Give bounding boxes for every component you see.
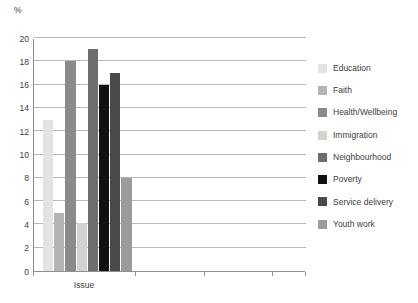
legend-item[interactable]: Poverty xyxy=(318,168,418,190)
y-tick-label: 8 xyxy=(7,174,29,183)
bar xyxy=(65,61,75,271)
legend-color-swatch-icon xyxy=(318,153,327,162)
chart-legend: EducationFaithHealth/WellbeingImmigratio… xyxy=(318,57,418,235)
bar xyxy=(99,85,109,271)
legend-label: Immigration xyxy=(333,131,377,140)
legend-item[interactable]: Education xyxy=(318,57,418,79)
y-tick-label: 20 xyxy=(7,35,29,44)
legend-label: Youth work xyxy=(333,220,375,229)
legend-item[interactable]: Immigration xyxy=(318,124,418,146)
legend-label: Faith xyxy=(333,86,352,95)
legend-item[interactable]: Youth work xyxy=(318,213,418,235)
y-tick-label: 4 xyxy=(7,221,29,230)
y-axis-tick-labels: 20181614121086420 xyxy=(5,39,29,272)
x-tick-mark xyxy=(33,272,34,276)
y-tick-label: 10 xyxy=(7,151,29,160)
bar xyxy=(43,120,53,271)
legend-label: Neighbourhood xyxy=(333,153,391,162)
bar xyxy=(77,223,87,271)
bar xyxy=(88,49,98,272)
legend-label: Health/Wellbeing xyxy=(333,108,397,117)
y-tick-label: 12 xyxy=(7,128,29,137)
x-axis-category-label: Issue xyxy=(33,280,135,290)
legend-color-swatch-icon xyxy=(318,197,327,206)
bar xyxy=(110,73,120,271)
x-tick-mark xyxy=(272,272,273,276)
x-tick-mark xyxy=(135,272,136,276)
y-tick-label: 14 xyxy=(7,104,29,113)
bar-chart: % 20181614121086420 Issue EducationFaith… xyxy=(0,0,418,303)
legend-item[interactable]: Neighbourhood xyxy=(318,146,418,168)
bar xyxy=(121,178,131,271)
x-tick-mark xyxy=(305,272,306,276)
legend-label: Education xyxy=(333,64,371,73)
legend-color-swatch-icon xyxy=(318,64,327,73)
y-tick-label: 0 xyxy=(7,268,29,277)
legend-item[interactable]: Service delivery xyxy=(318,191,418,213)
plot-area xyxy=(33,39,305,272)
legend-color-swatch-icon xyxy=(318,175,327,184)
legend-color-swatch-icon xyxy=(318,220,327,229)
x-axis-ticks xyxy=(33,272,306,277)
legend-label: Service delivery xyxy=(333,198,393,207)
legend-item[interactable]: Health/Wellbeing xyxy=(318,102,418,124)
legend-color-swatch-icon xyxy=(318,86,327,95)
legend-item[interactable]: Faith xyxy=(318,79,418,101)
y-tick-label: 2 xyxy=(7,244,29,253)
y-tick-label: 16 xyxy=(7,81,29,90)
bar xyxy=(54,213,64,271)
bar-group xyxy=(34,38,306,271)
y-axis-unit-label: % xyxy=(14,5,22,15)
legend-color-swatch-icon xyxy=(318,108,327,117)
y-tick-label: 6 xyxy=(7,198,29,207)
y-tick-label: 18 xyxy=(7,58,29,67)
legend-color-swatch-icon xyxy=(318,131,327,140)
legend-label: Poverty xyxy=(333,175,362,184)
x-tick-mark xyxy=(204,272,205,276)
